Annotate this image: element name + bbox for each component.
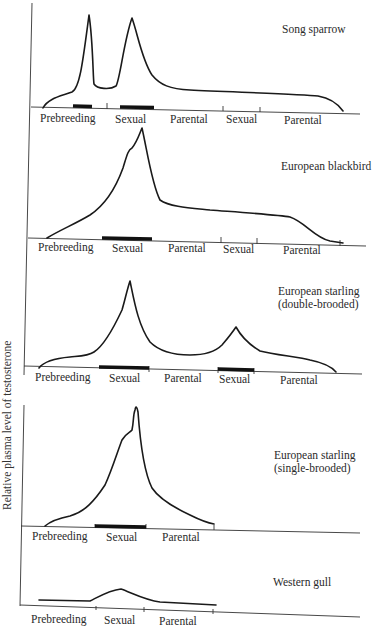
phase-label: Sexual <box>106 531 137 543</box>
sexual-bar <box>120 107 154 108</box>
phase-label: Prebreeding <box>38 241 94 254</box>
panel-western-gull: Western gull Prebreeding Sexual Parental <box>20 576 360 627</box>
panel-title: Western gull <box>273 576 331 589</box>
panel-title-line2: (single-brooded) <box>274 462 351 475</box>
curve-western-gull <box>39 589 216 605</box>
panel-title-line1: European starling <box>274 449 356 462</box>
phase-label: Sexual <box>115 113 146 125</box>
panel-title-line2: (double-brooded) <box>278 298 359 311</box>
phase-label: Parental <box>280 374 318 386</box>
panel-european-starling-single: European starling (single-brooded) Prebr… <box>21 407 360 543</box>
phase-label: Prebreeding <box>40 112 96 125</box>
phase-label: Sexual <box>112 242 143 254</box>
sexual-bar <box>99 367 149 368</box>
panel-title: Song sparrow <box>282 23 346 36</box>
sexual-bar <box>73 106 92 107</box>
phase-label: Parental <box>162 531 200 543</box>
curve-european-starling-single <box>45 407 214 526</box>
phase-label: Sexual <box>226 113 257 125</box>
phase-label: Sexual <box>109 372 140 384</box>
panel-european-starling-double: European starling (double-brooded) Prebr… <box>24 281 362 386</box>
phase-label: Prebreeding <box>35 371 91 384</box>
phase-label: Parental <box>283 244 321 256</box>
phase-label: Parental <box>168 242 206 254</box>
phase-label: Parental <box>159 615 197 627</box>
panel-european-blackbird: European blackbird Prebreeding Sexual Pa… <box>28 128 372 256</box>
phase-label: Sexual <box>219 373 250 385</box>
phase-label: Parental <box>170 113 208 125</box>
sexual-bar <box>218 369 254 370</box>
testosterone-chart: Relative plasma level of testosterone So… <box>0 0 372 630</box>
phase-label: Parental <box>164 372 202 384</box>
sexual-bar <box>102 238 152 239</box>
phase-label: Parental <box>284 114 322 126</box>
phase-label: Sexual <box>223 243 254 255</box>
panel-song-sparrow: Song sparrow Prebreeding Sexual Parental… <box>31 15 360 126</box>
y-axis-lower <box>20 405 24 606</box>
phase-label: Prebreeding <box>31 613 87 626</box>
curve-european-blackbird <box>47 128 343 243</box>
panel-title: European blackbird <box>281 160 372 173</box>
y-axis-upper <box>24 3 32 375</box>
y-axis-label: Relative plasma level of testosterone <box>1 341 14 510</box>
sexual-bar <box>95 526 146 527</box>
panel-title-line1: European starling <box>278 285 360 298</box>
phase-label: Prebreeding <box>32 530 88 543</box>
phase-label: Sexual <box>104 614 135 626</box>
